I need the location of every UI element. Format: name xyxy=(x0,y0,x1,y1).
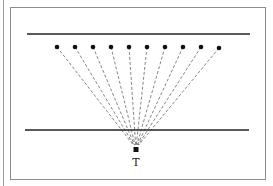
source-points xyxy=(55,45,222,51)
source-point xyxy=(127,45,132,50)
source-point xyxy=(199,45,204,50)
source-point xyxy=(55,45,60,50)
target-label: T xyxy=(132,156,140,169)
source-point xyxy=(73,45,78,50)
target-marker xyxy=(134,147,139,152)
source-point xyxy=(145,45,150,50)
source-point xyxy=(91,45,96,50)
source-point xyxy=(217,46,222,51)
source-point xyxy=(163,45,168,50)
source-point xyxy=(181,45,186,50)
source-point xyxy=(109,45,114,50)
diagram-canvas: T xyxy=(0,0,273,186)
diagram-frame xyxy=(11,8,266,180)
